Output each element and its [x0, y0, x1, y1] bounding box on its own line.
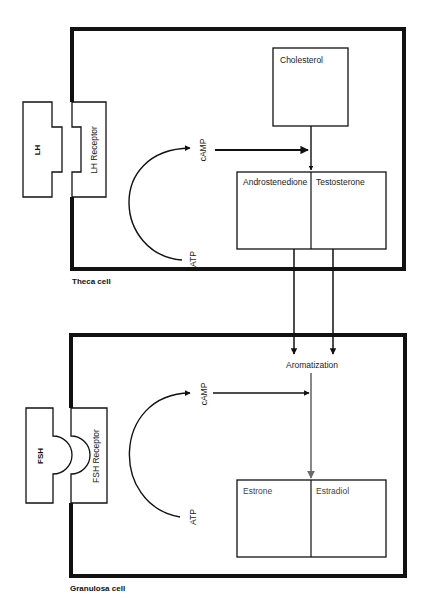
estradiol-label: Estradiol — [316, 486, 349, 496]
atp-label-granulosa: ATP — [188, 509, 198, 525]
androstenedione-label: Androstenedione — [243, 177, 308, 187]
fsh-receptor-shape — [71, 408, 107, 503]
fsh-ligand-label: FSH — [36, 448, 45, 464]
fsh-ligand-shape — [26, 408, 72, 503]
atp-to-camp-arrow-granulosa — [129, 393, 190, 517]
granulosa-cell-label: Granulosa cell — [70, 584, 125, 593]
fsh-receptor-label: FSH Receptor — [91, 429, 101, 483]
camp-label: cAMP — [198, 138, 208, 161]
atp-to-camp-arrow — [129, 148, 190, 260]
estrone-label: Estrone — [243, 486, 273, 496]
cholesterol-label: Cholesterol — [280, 55, 323, 65]
lh-ligand-label: LH — [33, 144, 42, 155]
granulosa-cell: FSH FSH Receptor cAMP ATP Aromatization … — [26, 335, 405, 593]
atp-label: ATP — [188, 251, 198, 267]
lh-receptor-label: LH Receptor — [89, 126, 99, 174]
aromatization-label: Aromatization — [286, 360, 338, 370]
testosterone-label: Testosterone — [316, 177, 365, 187]
theca-cell-label: Theca cell — [72, 277, 111, 286]
lh-ligand-shape — [23, 102, 62, 197]
androgen-transfer — [294, 249, 333, 354]
two-cell-diagram: LH LH Receptor cAMP ATP Cholesterol Andr… — [0, 0, 427, 613]
theca-cell: LH LH Receptor cAMP ATP Cholesterol Andr… — [23, 29, 404, 286]
camp-label-granulosa: cAMP — [199, 382, 209, 405]
